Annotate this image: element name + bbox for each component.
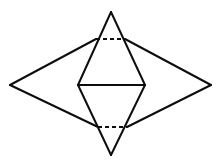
outer-lower-right-edge: [127, 85, 211, 127]
top-triangle-left-edge: [78, 12, 111, 85]
figure-canvas: [0, 0, 221, 163]
outer-lower-left-edge: [10, 85, 98, 127]
outer-upper-left-edge: [10, 39, 96, 85]
top-triangle-right-edge: [111, 12, 145, 85]
outer-upper-right-edge: [125, 39, 211, 85]
geometric-figure: [0, 0, 221, 163]
